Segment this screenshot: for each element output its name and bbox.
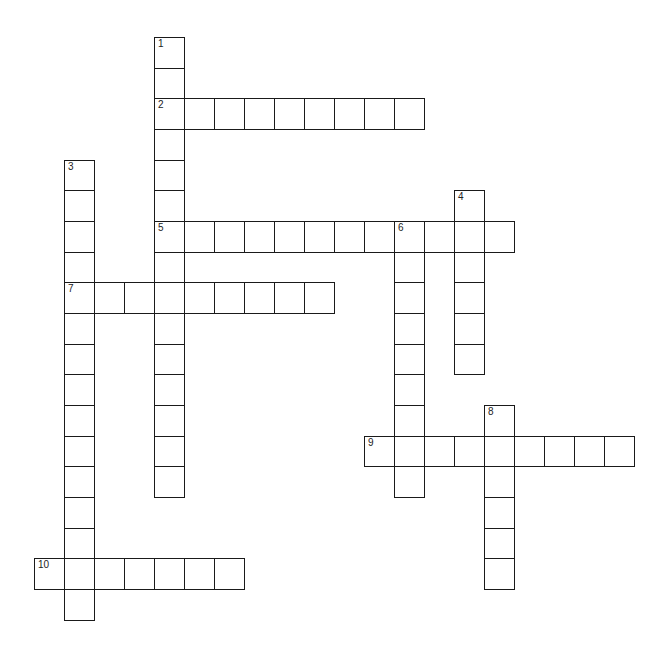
crossword-cell[interactable] (64, 589, 95, 621)
crossword-cell[interactable] (394, 466, 425, 498)
crossword-cell[interactable] (394, 282, 425, 314)
crossword-cell[interactable] (274, 221, 305, 253)
crossword-cell[interactable] (184, 282, 215, 314)
crossword-cell[interactable] (394, 405, 425, 437)
crossword-cell[interactable] (94, 558, 125, 590)
crossword-cell[interactable] (394, 344, 425, 376)
crossword-cell[interactable] (244, 282, 275, 314)
crossword-cell[interactable] (154, 405, 185, 437)
clue-number: 8 (488, 407, 494, 417)
clue-number: 5 (158, 223, 164, 233)
crossword-cell[interactable] (154, 160, 185, 192)
crossword-cell[interactable] (604, 436, 635, 468)
crossword-cell[interactable] (394, 436, 425, 468)
crossword-cell[interactable] (364, 98, 395, 130)
crossword-cell[interactable] (274, 282, 305, 314)
crossword-cell[interactable] (154, 374, 185, 406)
crossword-cell[interactable] (484, 221, 515, 253)
clue-number: 6 (398, 223, 404, 233)
crossword-cell[interactable] (484, 466, 515, 498)
crossword-cell[interactable] (304, 282, 335, 314)
clue-number: 7 (68, 284, 74, 294)
crossword-cell[interactable] (484, 436, 515, 468)
clue-number: 10 (38, 560, 49, 570)
clue-number: 9 (368, 438, 374, 448)
crossword-cell[interactable] (244, 98, 275, 130)
clue-number: 3 (68, 162, 74, 172)
crossword-cell[interactable] (214, 282, 245, 314)
crossword-cell[interactable] (454, 313, 485, 345)
crossword-cell[interactable] (574, 436, 605, 468)
crossword-cell[interactable] (424, 436, 455, 468)
crossword-cell[interactable]: 9 (364, 436, 395, 468)
crossword-cell[interactable] (484, 558, 515, 590)
crossword-cell[interactable] (154, 68, 185, 100)
crossword-cell[interactable] (64, 252, 95, 284)
crossword-cell[interactable] (64, 436, 95, 468)
crossword-cell[interactable] (64, 221, 95, 253)
crossword-cell[interactable] (124, 558, 155, 590)
crossword-cell[interactable] (304, 221, 335, 253)
crossword-cell[interactable] (64, 497, 95, 529)
crossword-cell[interactable] (154, 313, 185, 345)
crossword-cell[interactable] (64, 558, 95, 590)
crossword-cell[interactable] (154, 558, 185, 590)
crossword-cell[interactable] (454, 344, 485, 376)
crossword-cell[interactable] (154, 252, 185, 284)
crossword-cell[interactable] (64, 528, 95, 560)
crossword-cell[interactable]: 2 (154, 98, 185, 130)
crossword-cell[interactable] (64, 344, 95, 376)
crossword-cell[interactable] (514, 436, 545, 468)
crossword-cell[interactable] (64, 313, 95, 345)
crossword-cell[interactable] (454, 282, 485, 314)
crossword-cell[interactable] (214, 221, 245, 253)
crossword-cell[interactable] (184, 558, 215, 590)
clue-number: 2 (158, 100, 164, 110)
crossword-cell[interactable] (154, 282, 185, 314)
crossword-cell[interactable] (154, 129, 185, 161)
crossword-cell[interactable] (364, 221, 395, 253)
crossword-cell[interactable] (304, 98, 335, 130)
crossword-cell[interactable] (454, 221, 485, 253)
crossword-cell[interactable] (334, 221, 365, 253)
crossword-cell[interactable]: 6 (394, 221, 425, 253)
crossword-cell[interactable] (454, 252, 485, 284)
crossword-cell[interactable] (64, 190, 95, 222)
crossword-cell[interactable] (394, 374, 425, 406)
crossword-cell[interactable] (154, 466, 185, 498)
crossword-cell[interactable] (334, 98, 365, 130)
crossword-cell[interactable] (64, 405, 95, 437)
crossword-cell[interactable] (484, 528, 515, 560)
crossword-cell[interactable] (454, 436, 485, 468)
crossword-cell[interactable]: 4 (454, 190, 485, 222)
crossword-cell[interactable] (424, 221, 455, 253)
crossword-cell[interactable] (274, 98, 305, 130)
clue-number: 4 (458, 192, 464, 202)
crossword-cell[interactable] (124, 282, 155, 314)
crossword-cell[interactable] (184, 221, 215, 253)
crossword-cell[interactable] (214, 558, 245, 590)
crossword-cell[interactable] (244, 221, 275, 253)
crossword-cell[interactable] (394, 252, 425, 284)
crossword-cell[interactable] (214, 98, 245, 130)
crossword-cell[interactable] (64, 466, 95, 498)
clue-number: 1 (158, 39, 164, 49)
crossword-cell[interactable]: 8 (484, 405, 515, 437)
crossword-cell[interactable]: 7 (64, 282, 95, 314)
crossword-cell[interactable] (484, 497, 515, 529)
crossword-cell[interactable]: 3 (64, 160, 95, 192)
crossword-cell[interactable] (544, 436, 575, 468)
crossword-grid: 12537468910 (0, 0, 665, 662)
crossword-cell[interactable] (394, 313, 425, 345)
crossword-cell[interactable]: 1 (154, 37, 185, 69)
crossword-cell[interactable] (394, 98, 425, 130)
crossword-cell[interactable] (154, 436, 185, 468)
crossword-cell[interactable]: 10 (34, 558, 65, 590)
crossword-cell[interactable] (64, 374, 95, 406)
crossword-cell[interactable] (94, 282, 125, 314)
crossword-cell[interactable] (184, 98, 215, 130)
crossword-cell[interactable]: 5 (154, 221, 185, 253)
crossword-cell[interactable] (154, 344, 185, 376)
crossword-cell[interactable] (154, 190, 185, 222)
